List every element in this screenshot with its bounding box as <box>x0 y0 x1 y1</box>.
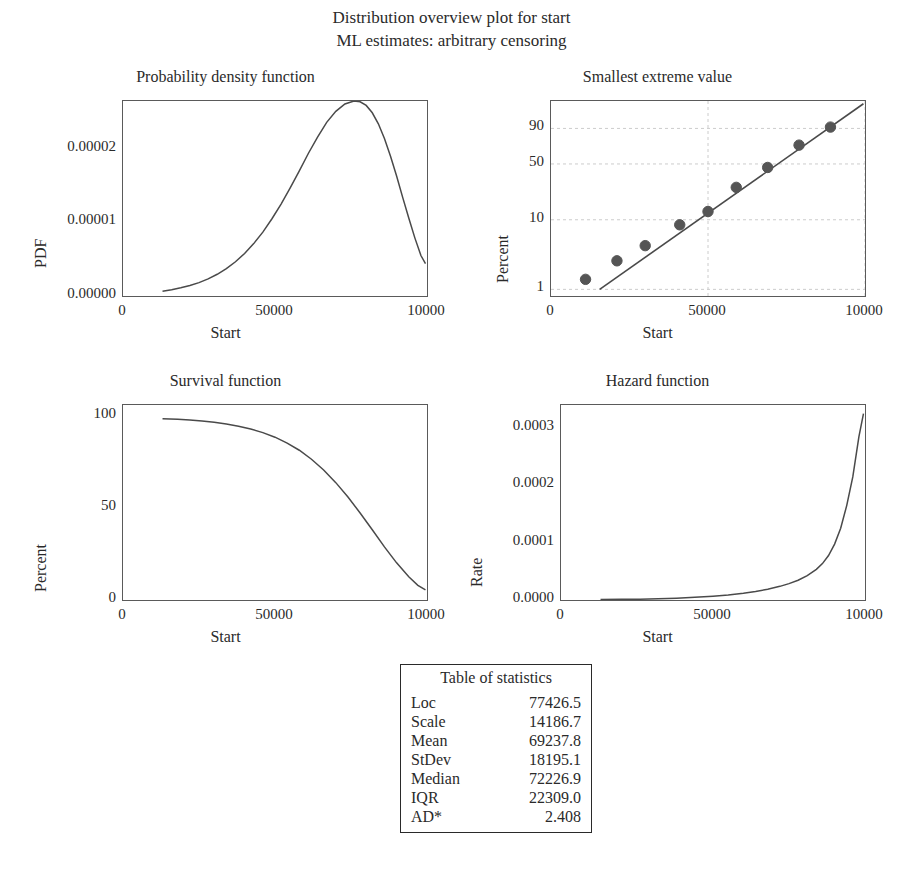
y-axis-tick-label: 0.00000 <box>67 285 116 302</box>
panel-title: Hazard function <box>432 372 883 390</box>
statistic-name: AD* <box>411 807 442 826</box>
y-axis-tick-label: 0.00001 <box>67 211 116 228</box>
x-axis-tick-label: 50000 <box>667 302 747 319</box>
x-axis-tick-label: 10000 <box>824 606 903 623</box>
statistic-value: 14186.7 <box>529 712 581 731</box>
x-axis-tick-label: 50000 <box>234 606 314 623</box>
statistics-table-header: Table of statistics <box>411 669 581 693</box>
x-axis-label: Start <box>432 628 883 646</box>
statistics-table-row: AD*2.408 <box>411 807 581 826</box>
y-axis-label: PDF <box>32 239 50 268</box>
panel-hazard-function: Hazard function Rate Start 0.00000.00010… <box>452 372 903 654</box>
panel-smallest-extreme-value: Smallest extreme value Percent Start 905… <box>452 68 903 350</box>
plot-frame <box>560 404 866 601</box>
x-axis-tick-label: 10000 <box>824 302 903 319</box>
statistic-name: IQR <box>411 788 439 807</box>
statistics-table-row: Median72226.9 <box>411 769 581 788</box>
statistic-value: 72226.9 <box>529 769 581 788</box>
x-axis-tick-label: 50000 <box>234 302 314 319</box>
statistic-value: 2.408 <box>545 807 581 826</box>
y-axis-tick-label: 0.0002 <box>513 474 554 491</box>
statistic-name: Median <box>411 769 460 788</box>
statistic-name: Scale <box>411 712 446 731</box>
statistic-name: Loc <box>411 693 436 712</box>
panel-probability-density-function: Probability density function PDF Start 0… <box>0 68 451 350</box>
y-axis-tick-label: 1 <box>537 278 545 295</box>
statistic-value: 18195.1 <box>529 750 581 769</box>
statistic-value: 69237.8 <box>529 731 581 750</box>
y-axis-tick-label: 50 <box>529 153 544 170</box>
x-axis-tick-label: 0 <box>82 302 162 319</box>
statistic-name: StDev <box>411 750 451 769</box>
x-axis-tick-label: 0 <box>520 606 600 623</box>
statistic-value: 77426.5 <box>529 693 581 712</box>
statistics-table-row: IQR22309.0 <box>411 788 581 807</box>
plot-frame <box>550 100 866 297</box>
panel-title: Survival function <box>0 372 451 390</box>
statistics-table-row: Scale14186.7 <box>411 712 581 731</box>
statistics-table-row: Loc77426.5 <box>411 693 581 712</box>
statistics-table-row: Mean69237.8 <box>411 731 581 750</box>
x-axis-tick-label: 0 <box>82 606 162 623</box>
statistics-table: Table of statistics Loc77426.5Scale14186… <box>400 664 592 833</box>
y-axis-tick-label: 0.0001 <box>513 532 554 549</box>
x-axis-label: Start <box>0 628 451 646</box>
statistic-name: Mean <box>411 731 447 750</box>
x-axis-tick-label: 50000 <box>672 606 752 623</box>
y-axis-tick-label: 0.0000 <box>513 589 554 606</box>
x-axis-label: Start <box>0 324 451 342</box>
y-axis-label: Percent <box>32 544 50 592</box>
panel-survival-function: Survival function Percent Start 05010005… <box>0 372 451 654</box>
y-axis-tick-label: 0 <box>109 589 117 606</box>
page-title: Distribution overview plot for start ML … <box>0 6 903 52</box>
y-axis-tick-label: 50 <box>101 497 116 514</box>
y-axis-tick-label: 10 <box>529 209 544 226</box>
y-axis-tick-label: 0.00002 <box>67 138 116 155</box>
x-axis-tick-label: 0 <box>510 302 590 319</box>
statistics-table-row: StDev18195.1 <box>411 750 581 769</box>
panel-title: Probability density function <box>0 68 451 86</box>
statistics-table-body: Loc77426.5Scale14186.7Mean69237.8StDev18… <box>411 693 581 826</box>
x-axis-label: Start <box>432 324 883 342</box>
y-axis-tick-label: 100 <box>94 405 117 422</box>
y-axis-label: Percent <box>494 235 512 283</box>
y-axis-tick-label: 90 <box>529 117 544 134</box>
plot-frame <box>122 100 428 297</box>
statistic-value: 22309.0 <box>529 788 581 807</box>
y-axis-tick-label: 0.0003 <box>513 417 554 434</box>
panel-title: Smallest extreme value <box>432 68 883 86</box>
title-line-1: Distribution overview plot for start <box>0 6 903 29</box>
plot-frame <box>122 404 428 601</box>
y-axis-label: Rate <box>468 558 486 587</box>
title-line-2: ML estimates: arbitrary censoring <box>0 29 903 52</box>
